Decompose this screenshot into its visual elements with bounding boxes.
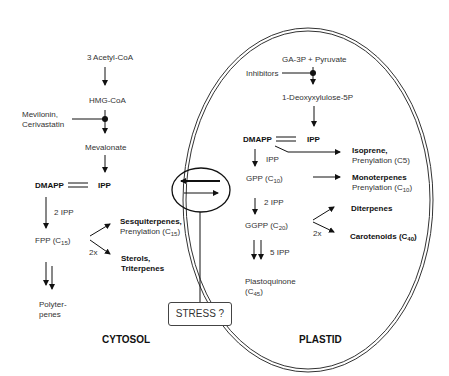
cytosol-ipp-label: IPP [98, 181, 111, 190]
plastid-title: PLASTID [299, 334, 342, 345]
monoterpenes-label: Monoterpenes [352, 173, 407, 182]
gpp-label: GPP (C10) [246, 174, 283, 183]
plastid-dmapp-label: DMAPP [243, 135, 272, 144]
sesquiterpenes-label: Sesquiterpenes, [120, 217, 182, 226]
prenylation-c10-label: Prenylation (C10) [352, 183, 412, 192]
diterpenes-label: Diterpenes [351, 204, 392, 213]
isoprene-label: Isoprene, [352, 146, 388, 155]
prenylation-c15-label: Prenylation (C15) [120, 227, 180, 236]
deoxyxylulose-label: 1-Deoxyxylulose-5P [282, 93, 353, 102]
cytosol-2ipp-label: 2 IPP [54, 208, 74, 217]
sterols-label: Sterols, [121, 254, 150, 263]
ggpp-label: GGPP (C20) [245, 221, 288, 230]
cytosol-dmapp-label: DMAPP [35, 181, 64, 190]
cerivastatin-label: Cerivastatin [22, 120, 64, 129]
hmg-coa-label: HMG-CoA [89, 96, 126, 105]
carotenoids-label: Carotenoids (C40) [350, 232, 417, 241]
plastid-2ipp-label: 2 IPP [264, 198, 284, 207]
polyterpenes-label-2: penes [39, 310, 61, 319]
plastid-2x-label: 2x [313, 229, 321, 238]
acetyl-coa-label: 3 Acetyl-CoA [80, 53, 140, 62]
plastid-ipp-label: IPP [307, 135, 320, 144]
plastid-5ipp-label: 5 IPP [270, 248, 290, 257]
ga3p-pyruvate-label: GA-3P + Pyruvate [282, 55, 347, 64]
cytosol-title: CYTOSOL [102, 334, 150, 345]
mevalonate-label: Mevalonate [85, 143, 126, 152]
plastoquinone-c45-label: (C45) [245, 287, 263, 296]
plastid-ipp-step-label: IPP [266, 155, 279, 164]
fpp-label: FPP (C15) [35, 236, 70, 245]
polyterpenes-label-1: Polyter- [39, 300, 67, 309]
stress-box: STRESS ? [168, 302, 232, 326]
prenylation-c5-label: Prenylation (C5) [352, 156, 410, 165]
cytosol-2x-label: 2x [89, 248, 97, 257]
mevilonin-label: Mevilonin, [22, 110, 58, 119]
plastoquinone-label: Plastoquinone [245, 277, 296, 286]
triterpenes-label: Triterpenes [121, 264, 164, 273]
inhibitors-label: Inhibitors [246, 69, 278, 78]
